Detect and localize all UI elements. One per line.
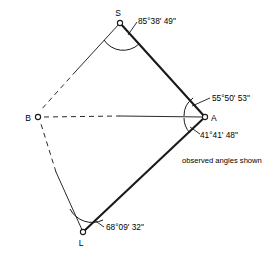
station-label-B: B	[25, 113, 31, 123]
leg-S-to-B-solid-part	[76, 23, 120, 71]
diagram-caption: observed angles shown	[182, 156, 262, 165]
angle-leader-S	[128, 22, 137, 35]
survey-traverse-diagram: S A L B 85°38' 49" 55°50' 53" 41°41' 48"…	[0, 0, 280, 256]
leg-L-to-B-solid-part	[56, 172, 83, 232]
leg-S-to-B-dashed-part	[40, 71, 76, 111]
angle-leader-A-upper	[192, 98, 210, 106]
leg-L-to-B-dashed-part	[41, 124, 56, 172]
station-label-L: L	[79, 238, 84, 248]
leg-S-to-A	[120, 23, 205, 117]
station-label-S: S	[115, 8, 121, 18]
angle-value-L: 68°09' 32"	[106, 222, 144, 232]
leg-B-to-A-dashed-part	[44, 116, 120, 117]
angle-value-S: 85°38' 49"	[138, 16, 176, 26]
angle-value-A-lower: 41°41' 48"	[200, 130, 238, 140]
station-marker-S	[117, 20, 122, 25]
station-marker-L	[80, 229, 85, 234]
angle-arc-L	[70, 209, 103, 222]
station-marker-B	[35, 114, 40, 119]
angle-value-A-upper: 55°50' 53"	[212, 93, 250, 103]
station-marker-A	[202, 114, 207, 119]
diagram-canvas: S A L B 85°38' 49" 55°50' 53" 41°41' 48"…	[0, 0, 280, 256]
leg-B-to-A-solid-part	[120, 116, 203, 117]
station-label-A: A	[211, 113, 217, 123]
angle-arc-S	[104, 40, 139, 50]
leg-A-to-L	[83, 117, 205, 232]
